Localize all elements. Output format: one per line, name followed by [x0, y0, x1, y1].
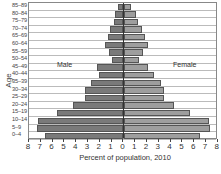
- male-bar: [97, 64, 123, 71]
- female-label: Female: [173, 61, 196, 68]
- male-bar: [114, 19, 123, 26]
- male-bar: [85, 95, 123, 102]
- female-bar: [124, 87, 164, 94]
- male-bar: [109, 49, 123, 56]
- female-bar: [124, 4, 131, 11]
- female-bar: [124, 11, 136, 18]
- male-bar: [73, 102, 123, 109]
- female-bar: [124, 133, 200, 140]
- x-tick-label: 8: [23, 142, 33, 151]
- plot-area: Male Female: [28, 2, 217, 139]
- x-axis-label: Percent of population, 2010: [40, 153, 210, 162]
- x-tick-label: 3: [82, 142, 92, 151]
- female-bar: [124, 34, 145, 41]
- male-bar: [105, 42, 123, 49]
- female-bar: [124, 72, 154, 79]
- female-bar: [124, 64, 148, 71]
- male-bar: [112, 57, 123, 64]
- female-bar: [124, 26, 142, 33]
- female-bar: [124, 49, 143, 56]
- x-tick-label: 4: [165, 142, 175, 151]
- x-tick-label: 1: [106, 142, 116, 151]
- male-bar: [115, 11, 123, 18]
- male-bar: [108, 34, 123, 41]
- x-tick-label: 1: [129, 142, 139, 151]
- center-axis-line: [123, 3, 124, 138]
- x-tick-label: 6: [47, 142, 57, 151]
- female-bar: [124, 19, 138, 26]
- female-bar: [124, 57, 139, 64]
- x-tick-label: 4: [70, 142, 80, 151]
- male-bar: [38, 118, 123, 125]
- female-bar: [124, 80, 161, 87]
- male-bar: [57, 110, 123, 117]
- x-tick-label: 7: [35, 142, 45, 151]
- x-tick-label: 5: [58, 142, 68, 151]
- x-tick-label: 2: [141, 142, 151, 151]
- female-bar: [124, 42, 148, 49]
- female-bar: [124, 118, 209, 125]
- female-bar: [124, 95, 164, 102]
- male-label: Male: [57, 61, 72, 68]
- x-tick-label: 5: [176, 142, 186, 151]
- x-tick-label: 3: [153, 142, 163, 151]
- x-tick-label: 6: [188, 142, 198, 151]
- female-bar: [124, 125, 210, 132]
- male-bar: [37, 125, 123, 132]
- x-tick-label: 8: [212, 142, 221, 151]
- x-tick-label: 7: [200, 142, 210, 151]
- male-bar: [99, 72, 123, 79]
- population-pyramid-chart: Age 85–8980–8475–7970–7465–6960–6455–595…: [0, 0, 221, 174]
- male-bar: [85, 87, 123, 94]
- x-tick-label: 0: [117, 142, 127, 151]
- x-tick-label: 2: [94, 142, 104, 151]
- male-bar: [110, 26, 123, 33]
- female-bar: [124, 110, 190, 117]
- male-bar: [91, 80, 123, 87]
- female-bar: [124, 102, 174, 109]
